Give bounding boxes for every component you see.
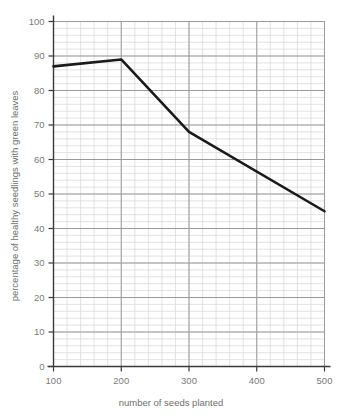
y-axis-tick-label: 100 xyxy=(29,16,45,27)
y-axis-tick-label: 80 xyxy=(34,85,45,96)
x-axis-tick-label: 500 xyxy=(317,375,333,386)
x-axis-tick-label: 100 xyxy=(46,375,62,386)
y-axis-tick-label: 0 xyxy=(39,361,44,372)
y-axis-tick-label: 70 xyxy=(34,119,45,130)
y-axis-title: percentage of healthy seedlings with gre… xyxy=(9,90,20,301)
x-axis-tick-label: 300 xyxy=(181,375,197,386)
y-axis-tick-label: 60 xyxy=(34,154,45,165)
y-axis-tick-label: 40 xyxy=(34,223,45,234)
x-axis-tick-label: 400 xyxy=(249,375,265,386)
y-axis-tick-label: 90 xyxy=(34,50,45,61)
line-chart: 0102030405060708090100 100200300400500 n… xyxy=(0,0,342,419)
x-axis-tick-label: 200 xyxy=(113,375,129,386)
chart-container: 0102030405060708090100 100200300400500 n… xyxy=(0,0,342,419)
y-axis-tick-label: 30 xyxy=(34,257,45,268)
y-axis-tick-label: 50 xyxy=(34,188,45,199)
y-axis-tick-label: 10 xyxy=(34,326,45,337)
x-axis-title: number of seeds planted xyxy=(119,397,224,408)
y-axis-tick-label: 20 xyxy=(34,292,45,303)
